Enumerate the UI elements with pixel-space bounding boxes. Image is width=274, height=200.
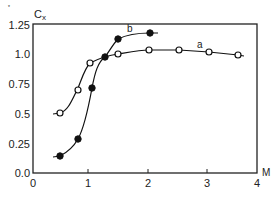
- curve-a: [53, 50, 244, 114]
- curve-b-label: b: [127, 23, 133, 34]
- y-axis-label: Cx: [34, 8, 46, 22]
- svg-text:1: 1: [85, 177, 91, 189]
- series-b-markers: [57, 30, 153, 159]
- svg-text:3: 3: [204, 177, 210, 189]
- plot-frame: [33, 24, 257, 173]
- x-tick-labels: 0 1 2 3 4: [30, 177, 260, 189]
- corner-mark: *: [8, 4, 10, 10]
- series-a-markers: [57, 47, 241, 116]
- svg-text:0.25: 0.25: [9, 138, 30, 150]
- svg-text:4: 4: [254, 177, 260, 189]
- svg-text:2: 2: [145, 177, 151, 189]
- chart: 1.25 1.0 0.75 0.5 0.25 0.0 0 1 2 3 4 Cx …: [0, 0, 274, 200]
- y-tick-labels: 1.25 1.0 0.75 0.5 0.25 0.0: [9, 19, 30, 179]
- svg-text:0.0: 0.0: [15, 167, 30, 179]
- curve-b: [53, 33, 158, 157]
- svg-text:0.75: 0.75: [9, 78, 30, 90]
- svg-text:0.5: 0.5: [15, 108, 30, 120]
- svg-text:1.0: 1.0: [15, 48, 30, 60]
- curve-a-label: a: [197, 39, 203, 50]
- svg-text:1.25: 1.25: [9, 19, 30, 31]
- svg-text:0: 0: [30, 177, 36, 189]
- x-axis-label: M: [262, 167, 270, 178]
